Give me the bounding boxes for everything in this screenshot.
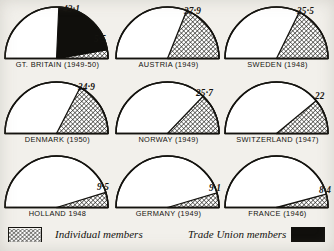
value-label-secondary: 5·5 xyxy=(94,34,106,44)
panel-caption: GERMANY (1949) xyxy=(113,209,224,218)
panel-caption: SWEDEN (1948) xyxy=(222,60,333,69)
chart-panel-austria: 37·9 AUSTRIA (1949) xyxy=(113,6,224,79)
chart-panel-germany: 9·1 GERMANY (1949) xyxy=(113,155,224,228)
value-label-primary: 37·9 xyxy=(184,6,201,16)
panel-caption: NORWAY (1949) xyxy=(113,135,224,144)
value-label-primary: 34·9 xyxy=(78,82,95,92)
chart-panel-switzerland: 22 SWITZERLAND (1947) xyxy=(222,81,333,154)
panel-caption: HOLLAND 1948 xyxy=(2,209,113,218)
value-label-primary: 35·5 xyxy=(297,6,314,16)
hatch-pattern-icon xyxy=(9,229,41,242)
gauge-france xyxy=(222,155,333,211)
panel-caption: GT. BRITAIN (1949-50) xyxy=(2,60,113,69)
legend-swatch-trade-union xyxy=(291,227,325,242)
value-label-primary: 22 xyxy=(315,91,325,101)
gauge-denmark xyxy=(2,81,113,137)
panel-caption: DENMARK (1950) xyxy=(2,135,113,144)
chart-panel-sweden: 35·5 SWEDEN (1948) xyxy=(222,6,333,79)
legend-swatch-individual xyxy=(8,227,42,242)
chart-panel-norway: 25·7 NORWAY (1949) xyxy=(113,81,224,154)
legend-label-individual: Individual members xyxy=(55,228,143,240)
gauge-austria xyxy=(113,6,224,62)
chart-panel-holland: 9·5 HOLLAND 1948 xyxy=(2,155,113,228)
gauge-switzerland xyxy=(222,81,333,137)
gauge-sweden xyxy=(222,6,333,62)
value-label-primary: 25·7 xyxy=(196,88,213,98)
value-label-primary: 8·4 xyxy=(319,185,331,195)
chart-panel-denmark: 34·9 DENMARK (1950) xyxy=(2,81,113,154)
value-label-primary: 9·5 xyxy=(97,182,109,192)
panel-caption: SWITZERLAND (1947) xyxy=(222,135,333,144)
chart-panel-france: 8·4 FRANCE (1946) xyxy=(222,155,333,228)
semicircle-chart-grid: 43·1 5·5 GT. BRITAIN (1949-50) 37·9 AUST… xyxy=(0,0,334,220)
value-label-primary: 43·1 xyxy=(63,4,80,14)
chart-panel-gt-britain: 43·1 5·5 GT. BRITAIN (1949-50) xyxy=(2,6,113,79)
value-label-primary: 9·1 xyxy=(209,183,221,193)
panel-caption: FRANCE (1946) xyxy=(222,209,333,218)
chart-legend: Individual members Trade Union members xyxy=(0,220,334,251)
gauge-germany xyxy=(113,155,224,211)
legend-label-trade-union: Trade Union members xyxy=(188,228,286,240)
panel-caption: AUSTRIA (1949) xyxy=(113,60,224,69)
wedge-trade-union-members xyxy=(57,7,108,58)
